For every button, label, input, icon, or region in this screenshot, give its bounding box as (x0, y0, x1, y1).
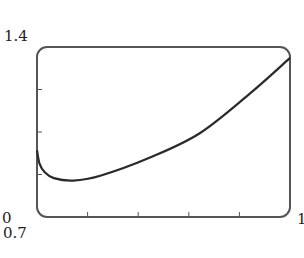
chart-plot-area (0, 0, 304, 258)
data-curve (37, 58, 290, 181)
chart-frame (37, 47, 290, 217)
axis-ticks (37, 90, 239, 218)
